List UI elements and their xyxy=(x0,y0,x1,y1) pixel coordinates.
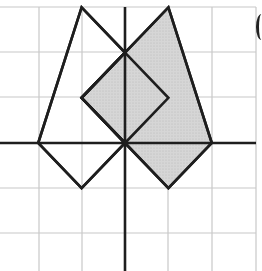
coordinate-grid-figure xyxy=(0,0,262,271)
cropped-paren-glyph xyxy=(256,14,262,40)
